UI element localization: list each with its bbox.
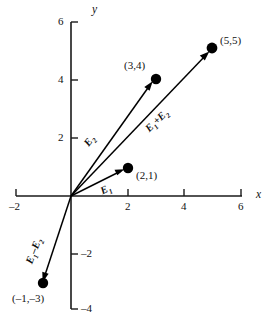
point-label-5-5: (5,5) [220,35,241,46]
vector-E2-arrowhead [144,81,152,91]
y-tick-label-6: 6 [58,16,64,27]
y-tick-label-neg2: –2 [81,248,92,259]
y-tick-label-4: 4 [58,74,64,85]
point-5-5-dot [207,43,218,54]
plot-canvas [0,0,274,319]
point-label-3-4: (3,4) [124,60,145,71]
y-tick-label-2: 2 [58,132,64,143]
point-neg1-neg3-dot [38,278,48,288]
point-label-neg1-neg3: (–1,–3) [12,293,44,304]
x-tick-label-4: 4 [181,201,187,212]
point-label-2-1: (2,1) [136,170,157,181]
vector-diagram-figure: y x –2 2 4 6 6 4 2 –2 –4 (2,1) (3,4) (5,… [0,0,274,319]
x-tick-label-2: 2 [125,201,131,212]
y-tick-label-neg4: –4 [81,303,92,314]
x-tick-label-6: 6 [238,201,244,212]
point-3-4-dot [151,74,161,84]
x-tick-label-neg2: –2 [9,201,20,212]
vector-E1-minus-E2-shaft [44,196,71,278]
point-2-1-dot [123,163,133,173]
x-axis-label: x [256,189,261,201]
y-axis-label: y [92,4,97,16]
